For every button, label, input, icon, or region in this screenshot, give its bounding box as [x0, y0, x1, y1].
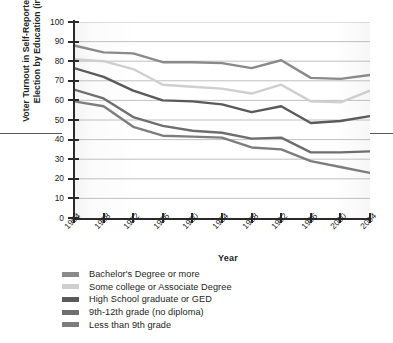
y-axis-label: 20 — [38, 173, 64, 183]
y-axis-label: 10 — [38, 193, 64, 203]
y-axis-label: 70 — [38, 75, 64, 85]
y-axis-tick — [68, 158, 79, 160]
legend-label: 9th-12th grade (no diploma) — [89, 307, 204, 317]
legend-item: High School graduate or GED — [62, 293, 362, 306]
y-axis-label: 80 — [38, 56, 64, 66]
y-axis-tick — [68, 60, 79, 62]
y-axis-label: 50 — [38, 115, 64, 125]
legend-label: Bachelor's Degree or more — [89, 269, 200, 279]
y-axis-tick — [68, 178, 79, 180]
legend-label: Some college or Associate Degree — [89, 282, 232, 292]
y-axis-tick — [68, 197, 79, 199]
gridlines — [74, 22, 370, 198]
y-axis-tick — [68, 41, 79, 43]
y-axis-label: 90 — [38, 36, 64, 46]
x-axis-label: 1964 — [62, 211, 82, 231]
chart-figure: Voter Turnout in Self-Reported President… — [0, 0, 393, 343]
legend-swatch — [62, 310, 79, 315]
series-line — [74, 101, 370, 173]
plot-svg — [74, 22, 370, 218]
y-axis-tick — [68, 119, 79, 121]
legend-item: Bachelor's Degree or more — [62, 268, 362, 281]
y-axis-label: 40 — [38, 134, 64, 144]
series-line — [74, 68, 370, 123]
series-lines — [74, 46, 370, 173]
y-axis-tick — [68, 139, 79, 141]
legend-swatch — [62, 284, 79, 289]
legend-item: 9th-12th grade (no diploma) — [62, 306, 362, 319]
legend-item: Some college or Associate Degree — [62, 281, 362, 294]
legend-swatch — [62, 297, 79, 302]
y-axis-label: 100 — [38, 17, 64, 27]
legend-label: High School graduate or GED — [89, 294, 212, 304]
legend-swatch — [62, 322, 79, 327]
legend-item: Less than 9th grade — [62, 318, 362, 331]
chart-legend: Bachelor's Degree or moreSome college or… — [62, 268, 362, 331]
y-axis-label: 60 — [38, 95, 64, 105]
series-line — [74, 46, 370, 79]
y-axis-label: 30 — [38, 154, 64, 164]
legend-label: Less than 9th grade — [89, 320, 171, 330]
y-axis-tick — [68, 21, 79, 23]
legend-swatch — [62, 272, 79, 277]
y-axis-tick — [68, 99, 79, 101]
x-axis-title: Year — [70, 253, 386, 263]
y-axis-label: 0 — [38, 213, 64, 223]
y-axis-tick — [68, 80, 79, 82]
plot-area — [74, 22, 370, 218]
